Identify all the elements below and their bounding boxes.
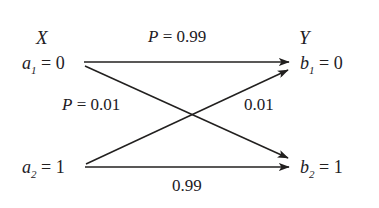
edge-label-top-value: 0.99: [176, 27, 206, 46]
node-a2-value: = 1: [37, 157, 65, 177]
node-b2-var: b: [300, 157, 309, 177]
node-label-a1: a1 = 0: [22, 54, 65, 76]
edge-label-midleft-prefix: P: [62, 95, 72, 114]
edge-label-midleft-equals: =: [72, 95, 90, 114]
edge-label-a1-b2: P = 0.01: [62, 96, 120, 113]
edge-label-midright-value: 0.01: [244, 95, 274, 114]
node-b1-var: b: [300, 53, 309, 73]
edge-label-midleft-value: 0.01: [90, 95, 120, 114]
node-a1-var: a: [22, 53, 31, 73]
edge-label-a2-b1: 0.01: [244, 96, 274, 113]
edge-a2-to-b1: [86, 70, 288, 164]
node-a1-value: = 0: [37, 53, 65, 73]
node-a2-var: a: [22, 157, 31, 177]
edge-label-top-equals: =: [158, 27, 176, 46]
input-set-label: X: [36, 28, 48, 47]
edge-label-a2-b2: 0.99: [172, 177, 202, 194]
output-set-label: Y: [299, 28, 310, 47]
node-label-a2: a2 = 1: [22, 158, 65, 180]
edge-label-a1-b1: P = 0.99: [148, 28, 206, 45]
node-label-b1: b1 = 0: [300, 54, 343, 76]
channel-diagram-figure: X Y a1 = 0 a2 = 1 b1 = 0 b2 = 1 P = 0.99…: [0, 0, 379, 208]
node-b2-value: = 1: [315, 157, 343, 177]
node-label-b2: b2 = 1: [300, 158, 343, 180]
edge-label-bottom-value: 0.99: [172, 176, 202, 195]
edge-label-top-prefix: P: [148, 27, 158, 46]
node-b1-value: = 0: [315, 53, 343, 73]
